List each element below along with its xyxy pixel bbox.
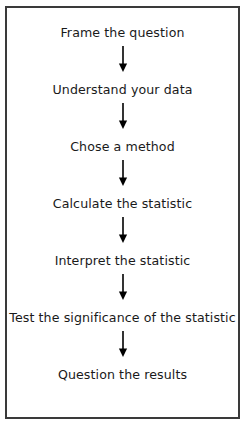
flow-step-5: Interpret the statistic [7,254,238,268]
down-arrow-icon [7,217,238,245]
flow-step-label: Frame the question [7,26,238,40]
flow-step-7: Question the results [7,368,238,382]
flow-step-4: Calculate the statistic [7,197,238,211]
down-arrow-icon [7,103,238,131]
down-arrow-icon [7,160,238,188]
flow-step-3: Chose a method [7,140,238,154]
flow-step-label: Calculate the statistic [7,197,238,211]
flow-step-label: Interpret the statistic [7,254,238,268]
down-arrow-icon [7,46,238,74]
flowchart-frame: Frame the questionUnderstand your dataCh… [5,6,240,419]
flowchart-step-list: Frame the questionUnderstand your dataCh… [7,8,238,417]
flow-step-label: Question the results [7,368,238,382]
flow-step-label: Understand your data [7,83,238,97]
flow-step-label: Chose a method [7,140,238,154]
flow-step-2: Understand your data [7,83,238,97]
flow-step-6: Test the significance of the statistic [7,311,238,325]
flow-step-label: Test the significance of the statistic [7,311,238,325]
down-arrow-icon [7,331,238,359]
flow-step-1: Frame the question [7,26,238,40]
down-arrow-icon [7,274,238,302]
